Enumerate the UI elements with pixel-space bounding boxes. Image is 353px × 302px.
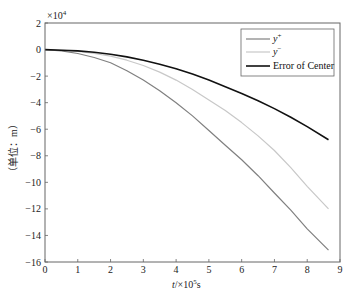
- x-tick-label: 6: [239, 264, 244, 275]
- line-chart: 012345678920−2−4−6−8−10−12−14−16 ×104 （单…: [0, 0, 353, 302]
- y-tick-label: −2: [30, 71, 41, 82]
- x-tick-label: 5: [206, 264, 211, 275]
- x-tick-label: 9: [338, 264, 343, 275]
- series-line-y-: [45, 50, 329, 251]
- data-lines: [45, 50, 329, 251]
- y-tick-label: −6: [30, 124, 41, 135]
- y-tick-label: −12: [25, 203, 41, 214]
- x-tick-label: 1: [75, 264, 80, 275]
- y-tick-label: −4: [30, 97, 41, 108]
- legend-label-error-of-center: Error of Center: [273, 60, 335, 71]
- y-tick-label: −16: [25, 257, 41, 268]
- x-tick-label: 8: [305, 264, 310, 275]
- x-tick-label: 3: [141, 264, 146, 275]
- x-tick-label: 7: [272, 264, 277, 275]
- y-tick-label: −10: [25, 177, 41, 188]
- y-tick-label: −8: [30, 150, 41, 161]
- y-tick-label: 0: [36, 44, 41, 55]
- x-tick-label: 4: [174, 264, 179, 275]
- legend: y+ y− Error of Center: [241, 29, 335, 76]
- y-tick-label: −14: [25, 230, 41, 241]
- y-axis-label: （单位：m）: [7, 119, 19, 177]
- y-multiplier: ×104: [47, 9, 67, 21]
- x-axis-label: t/×105s: [172, 278, 201, 290]
- y-tick-label: 2: [36, 18, 41, 29]
- x-tick-label: 2: [108, 264, 113, 275]
- x-tick-label: 0: [43, 264, 48, 275]
